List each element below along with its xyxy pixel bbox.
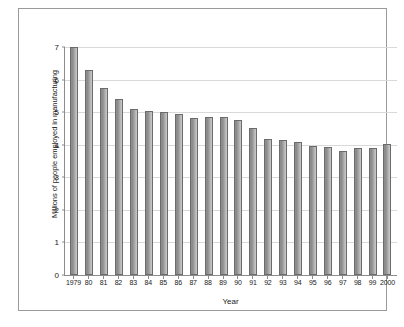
bar (145, 111, 153, 275)
bar (85, 70, 93, 275)
bar (205, 117, 213, 275)
bar-slot (186, 47, 201, 275)
bar-slot (216, 47, 231, 275)
x-axis-label-slot: 98 (350, 279, 365, 291)
x-axis-label-slot: 85 (156, 279, 171, 291)
bar (294, 142, 302, 275)
x-axis-label-slot: 81 (96, 279, 111, 291)
x-axis-tick-label: 90 (234, 279, 241, 286)
x-axis-tick-label: 94 (294, 279, 301, 286)
x-axis-label-slot: 92 (260, 279, 275, 291)
bar (249, 128, 257, 275)
bar (190, 118, 198, 275)
x-axis-tick-label: 1979 (66, 279, 81, 286)
x-axis-tick-label: 86 (174, 279, 181, 286)
bar (160, 112, 168, 276)
x-axis-label-slot: 82 (111, 279, 126, 291)
bar (100, 88, 108, 275)
y-axis-tick-label: 6 (55, 75, 59, 84)
bar-slot (320, 47, 335, 275)
x-axis-tick-label: 87 (189, 279, 196, 286)
bar-slot (380, 47, 395, 275)
bar-slot (171, 47, 186, 275)
bar (220, 117, 228, 275)
x-axis-tick-label: 83 (130, 279, 137, 286)
x-axis-tick-label: 98 (354, 279, 361, 286)
bar-slot (231, 47, 246, 275)
y-axis-tick-label: 0 (55, 271, 59, 280)
x-axis-tick-label: 2000 (380, 279, 395, 286)
x-axis-label-slot: 99 (365, 279, 380, 291)
bar (130, 109, 138, 275)
x-axis-tick-label: 97 (339, 279, 346, 286)
x-axis-label-slot: 83 (126, 279, 141, 291)
bar (279, 140, 287, 275)
x-axis-tick-label: 81 (100, 279, 107, 286)
x-axis-tick-label: 89 (219, 279, 226, 286)
bar-slot (276, 47, 291, 275)
y-axis-tick-label: 3 (55, 173, 59, 182)
x-axis-label-slot: 91 (245, 279, 260, 291)
x-axis-tick-label: 96 (324, 279, 331, 286)
y-axis-tick-label: 5 (55, 108, 59, 117)
bar-slot (97, 47, 112, 275)
bar (115, 99, 123, 275)
x-axis-label-slot: 97 (335, 279, 350, 291)
bar (309, 146, 317, 275)
y-axis-tick-label: 1 (55, 238, 59, 247)
bar-slot (365, 47, 380, 275)
chart-figure-frame: Millions of people employed in manufactu… (18, 8, 387, 311)
x-axis-tick-label: 95 (309, 279, 316, 286)
bar-series (65, 47, 397, 275)
x-axis-title: Year (64, 297, 397, 306)
plot-area: 01234567 (64, 47, 397, 276)
y-axis-tick-label: 7 (55, 43, 59, 52)
x-axis-tick-label: 93 (279, 279, 286, 286)
x-axis-label-slot: 88 (201, 279, 216, 291)
x-axis-label-slot: 90 (230, 279, 245, 291)
x-axis-tick-label: 85 (160, 279, 167, 286)
bar-slot (201, 47, 216, 275)
bar-slot (82, 47, 97, 275)
x-axis-tick-label: 99 (369, 279, 376, 286)
bar-slot (350, 47, 365, 275)
x-axis-tick-label: 88 (204, 279, 211, 286)
bar-slot (127, 47, 142, 275)
x-axis-label-slot: 80 (81, 279, 96, 291)
bar-slot (67, 47, 82, 275)
x-axis-label-slot: 89 (216, 279, 231, 291)
bar-slot (246, 47, 261, 275)
x-axis-label-slot: 84 (141, 279, 156, 291)
x-axis-tick-label: 84 (145, 279, 152, 286)
x-axis-label-slot: 2000 (380, 279, 395, 291)
bar (383, 144, 391, 275)
bar-slot (156, 47, 171, 275)
bar-slot (142, 47, 157, 275)
x-axis-label-slot: 1979 (66, 279, 81, 291)
x-axis-tick-label: 92 (264, 279, 271, 286)
x-axis-label-slot: 94 (290, 279, 305, 291)
bar (354, 148, 362, 275)
bar-slot (291, 47, 306, 275)
x-axis-tick-label: 91 (249, 279, 256, 286)
y-axis-tick-label: 4 (55, 140, 59, 149)
x-axis-label-slot: 86 (171, 279, 186, 291)
bar (369, 148, 377, 275)
bar (234, 120, 242, 275)
x-axis-tick-labels: 1979808182838485868788899091929394959697… (64, 279, 397, 291)
x-axis-label-slot: 95 (305, 279, 320, 291)
bar-slot (112, 47, 127, 275)
x-axis-tick-label: 82 (115, 279, 122, 286)
bar (324, 147, 332, 275)
x-axis-tick-label: 80 (85, 279, 92, 286)
x-axis-label-slot: 87 (186, 279, 201, 291)
bar-slot (335, 47, 350, 275)
bar-slot (306, 47, 321, 275)
y-axis-tick-label: 2 (55, 205, 59, 214)
x-axis-label-slot: 93 (275, 279, 290, 291)
bar-slot (261, 47, 276, 275)
bar (175, 114, 183, 275)
bar (70, 47, 78, 275)
bar (264, 139, 272, 275)
x-axis-label-slot: 96 (320, 279, 335, 291)
